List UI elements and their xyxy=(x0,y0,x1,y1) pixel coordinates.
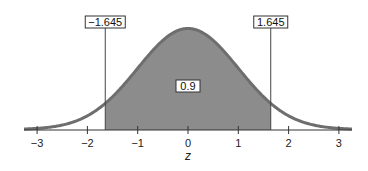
x-tick-label: 3 xyxy=(336,137,342,149)
area-label: 0.9 xyxy=(180,80,195,92)
boundary-label: −1.645 xyxy=(88,16,122,28)
normal-distribution-chart: −3−2−10123 z −1.6451.6450.9 xyxy=(0,0,368,171)
x-axis-title: z xyxy=(184,149,191,163)
x-tick-label: 2 xyxy=(286,137,292,149)
x-tick-label: −2 xyxy=(81,137,94,149)
boundary-label: 1.645 xyxy=(257,16,285,28)
x-tick-label: 0 xyxy=(185,137,191,149)
x-tick-label: −1 xyxy=(131,137,144,149)
x-tick-label: 1 xyxy=(235,137,241,149)
x-tick-label: −3 xyxy=(31,137,44,149)
